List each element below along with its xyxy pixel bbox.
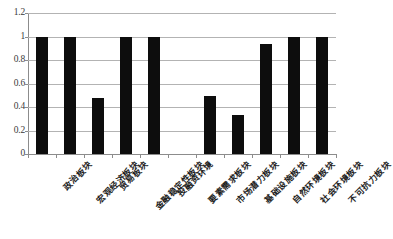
bar-slot	[308, 13, 336, 154]
bar	[204, 96, 216, 154]
bar	[120, 37, 132, 155]
bar-slot	[84, 13, 112, 154]
x-tick-label: 政治板块	[62, 160, 94, 192]
x-tick-mark	[112, 154, 113, 158]
x-tick-mark	[56, 154, 57, 158]
bar-slot	[252, 13, 280, 154]
bar	[92, 98, 104, 154]
y-tick-mark	[25, 84, 28, 85]
x-tick-mark	[224, 154, 225, 158]
bar-slot	[280, 13, 308, 154]
y-tick-label: 0	[1, 149, 25, 159]
plot-area	[28, 13, 336, 154]
x-tick-mark	[196, 154, 197, 158]
x-tick-mark	[84, 154, 85, 158]
bar	[232, 115, 244, 154]
x-axis-labels: 政治板块宏观经济板块贸易板块金融稳定性板块投融资环境要素需求板块市场潜力板块基础…	[28, 154, 336, 239]
bar-slot	[28, 13, 56, 154]
y-tick-mark	[25, 107, 28, 108]
x-tick-mark	[28, 154, 29, 158]
x-tick-mark	[140, 154, 141, 158]
bar	[316, 37, 328, 155]
bar-slot	[224, 13, 252, 154]
y-tick-label: 0.2	[1, 126, 25, 136]
x-tick-mark	[252, 154, 253, 158]
y-tick-label: 0.6	[1, 79, 25, 89]
y-tick-label: 1.2	[1, 8, 25, 18]
bar	[36, 37, 48, 155]
x-tick-mark	[308, 154, 309, 158]
x-tick-mark	[168, 154, 169, 158]
bar	[260, 44, 272, 154]
y-tick-mark	[25, 60, 28, 61]
y-tick-label: 1	[1, 32, 25, 42]
bar-slot	[196, 13, 224, 154]
bar	[64, 37, 76, 155]
bar	[148, 37, 160, 155]
y-tick-mark	[25, 13, 28, 14]
bar-slot	[56, 13, 84, 154]
y-axis-labels: 00.20.40.60.811.2	[0, 0, 25, 239]
bar	[288, 37, 300, 155]
x-tick-mark	[336, 154, 337, 158]
y-tick-mark	[25, 131, 28, 132]
y-tick-mark	[25, 37, 28, 38]
bar-slot	[112, 13, 140, 154]
y-tick-label: 0.8	[1, 55, 25, 65]
bar-slot	[168, 13, 196, 154]
bar-slot	[140, 13, 168, 154]
x-tick-mark	[280, 154, 281, 158]
y-tick-label: 0.4	[1, 102, 25, 112]
